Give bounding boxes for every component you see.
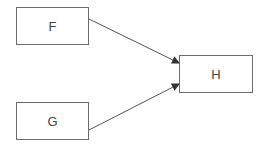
node-g-label: G [47, 114, 57, 129]
node-f: F [16, 7, 89, 45]
node-h: H [179, 55, 253, 93]
edge-f-to-h [89, 19, 179, 63]
edge-g-to-h [89, 84, 179, 130]
node-g: G [16, 102, 89, 140]
node-f-label: F [49, 19, 57, 34]
node-h-label: H [211, 67, 220, 82]
